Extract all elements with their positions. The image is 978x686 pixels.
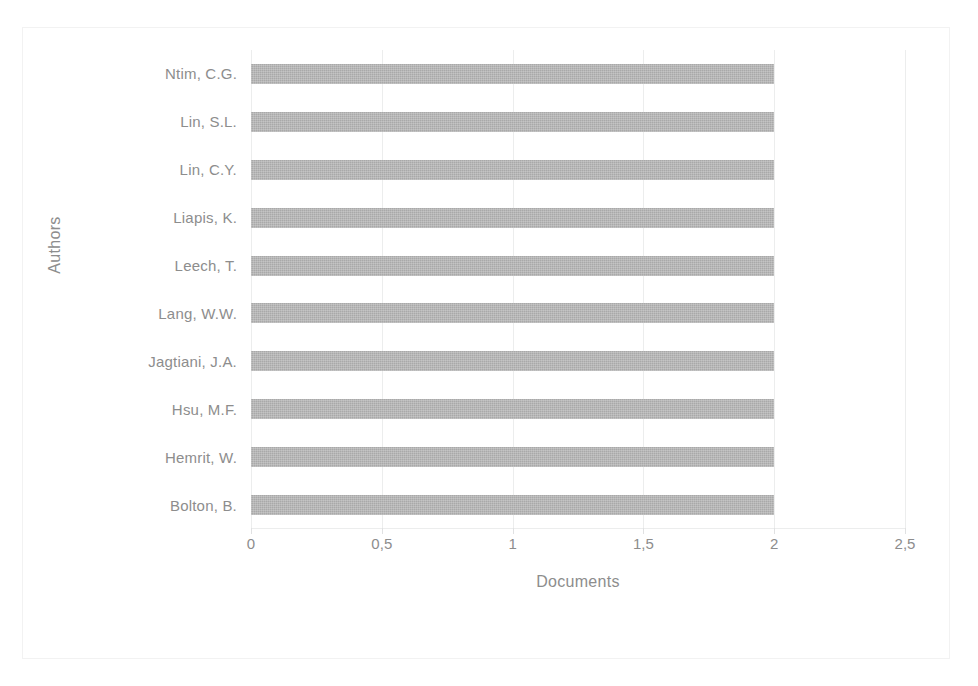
y-axis-tick-label: Hsu, M.F. [172, 385, 237, 433]
x-axis-tick-label: 0,5 [371, 535, 392, 552]
bar-row [251, 50, 774, 98]
bar-row [251, 385, 774, 433]
x-axis-tickmark [905, 528, 906, 534]
y-axis-tick-label: Hemrit, W. [165, 433, 237, 481]
bar[interactable] [251, 303, 774, 323]
bar-row [251, 290, 774, 338]
chart-container: Authors Ntim, C.G.Lin, S.L.Lin, C.Y.Liap… [22, 27, 950, 659]
x-axis-tick-label: 1,5 [633, 535, 654, 552]
x-axis-tick-label: 1 [508, 535, 516, 552]
y-axis-tick-label: Liapis, K. [173, 194, 237, 242]
bar[interactable] [251, 208, 774, 228]
y-axis-tick-label: Lin, C.Y. [180, 146, 237, 194]
bar-row [251, 194, 774, 242]
x-axis-tickmark [774, 528, 775, 534]
bar[interactable] [251, 64, 774, 84]
bar[interactable] [251, 160, 774, 180]
bar[interactable] [251, 351, 774, 371]
bar-row [251, 337, 774, 385]
y-axis-tick-label: Lang, W.W. [158, 290, 237, 338]
bar[interactable] [251, 112, 774, 132]
x-axis-tickmark [513, 528, 514, 534]
x-axis-tickmark [251, 528, 252, 534]
bar-row [251, 242, 774, 290]
y-axis-tick-label: Ntim, C.G. [165, 50, 237, 98]
y-axis-tick-label: Jagtiani, J.A. [148, 337, 237, 385]
y-axis-tick-label: Lin, S.L. [180, 98, 237, 146]
x-axis-tick-label: 0 [247, 535, 255, 552]
plot-area [251, 50, 905, 529]
bar[interactable] [251, 399, 774, 419]
x-axis-tickmark [643, 528, 644, 534]
bar-row [251, 98, 774, 146]
x-axis-title: Documents [251, 573, 905, 591]
gridline [774, 50, 775, 529]
y-axis-tick-label: Bolton, B. [170, 481, 237, 529]
bar[interactable] [251, 447, 774, 467]
bar-row [251, 433, 774, 481]
y-axis-tick-label: Leech, T. [175, 242, 237, 290]
bar-row [251, 146, 774, 194]
gridline [905, 50, 906, 529]
x-axis-tickmark [382, 528, 383, 534]
y-axis-tick-labels: Ntim, C.G.Lin, S.L.Lin, C.Y.Liapis, K.Le… [23, 50, 237, 529]
bar-row [251, 481, 774, 529]
x-axis-tick-label: 2 [770, 535, 778, 552]
bar[interactable] [251, 495, 774, 515]
x-axis-tick-labels: 00,511,522,5 [251, 535, 905, 561]
bar[interactable] [251, 256, 774, 276]
x-axis-tick-label: 2,5 [895, 535, 916, 552]
